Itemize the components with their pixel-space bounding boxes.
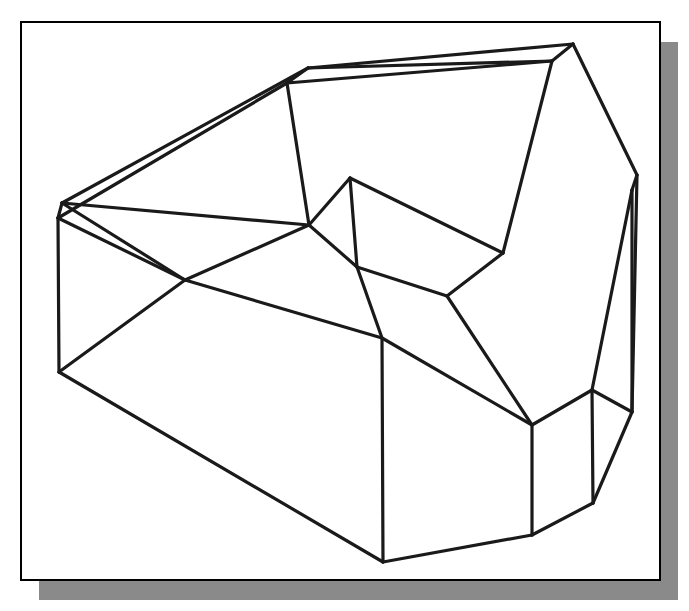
wireframe-drawing-canvas — [0, 0, 689, 611]
wireframe-edge-MN — [382, 338, 383, 562]
frame-group — [21, 22, 660, 580]
wireframe-edge-QR — [592, 390, 593, 503]
figure-border-rect — [21, 22, 660, 580]
wireframe-edge-AD — [58, 218, 59, 372]
figure-root — [0, 0, 689, 611]
